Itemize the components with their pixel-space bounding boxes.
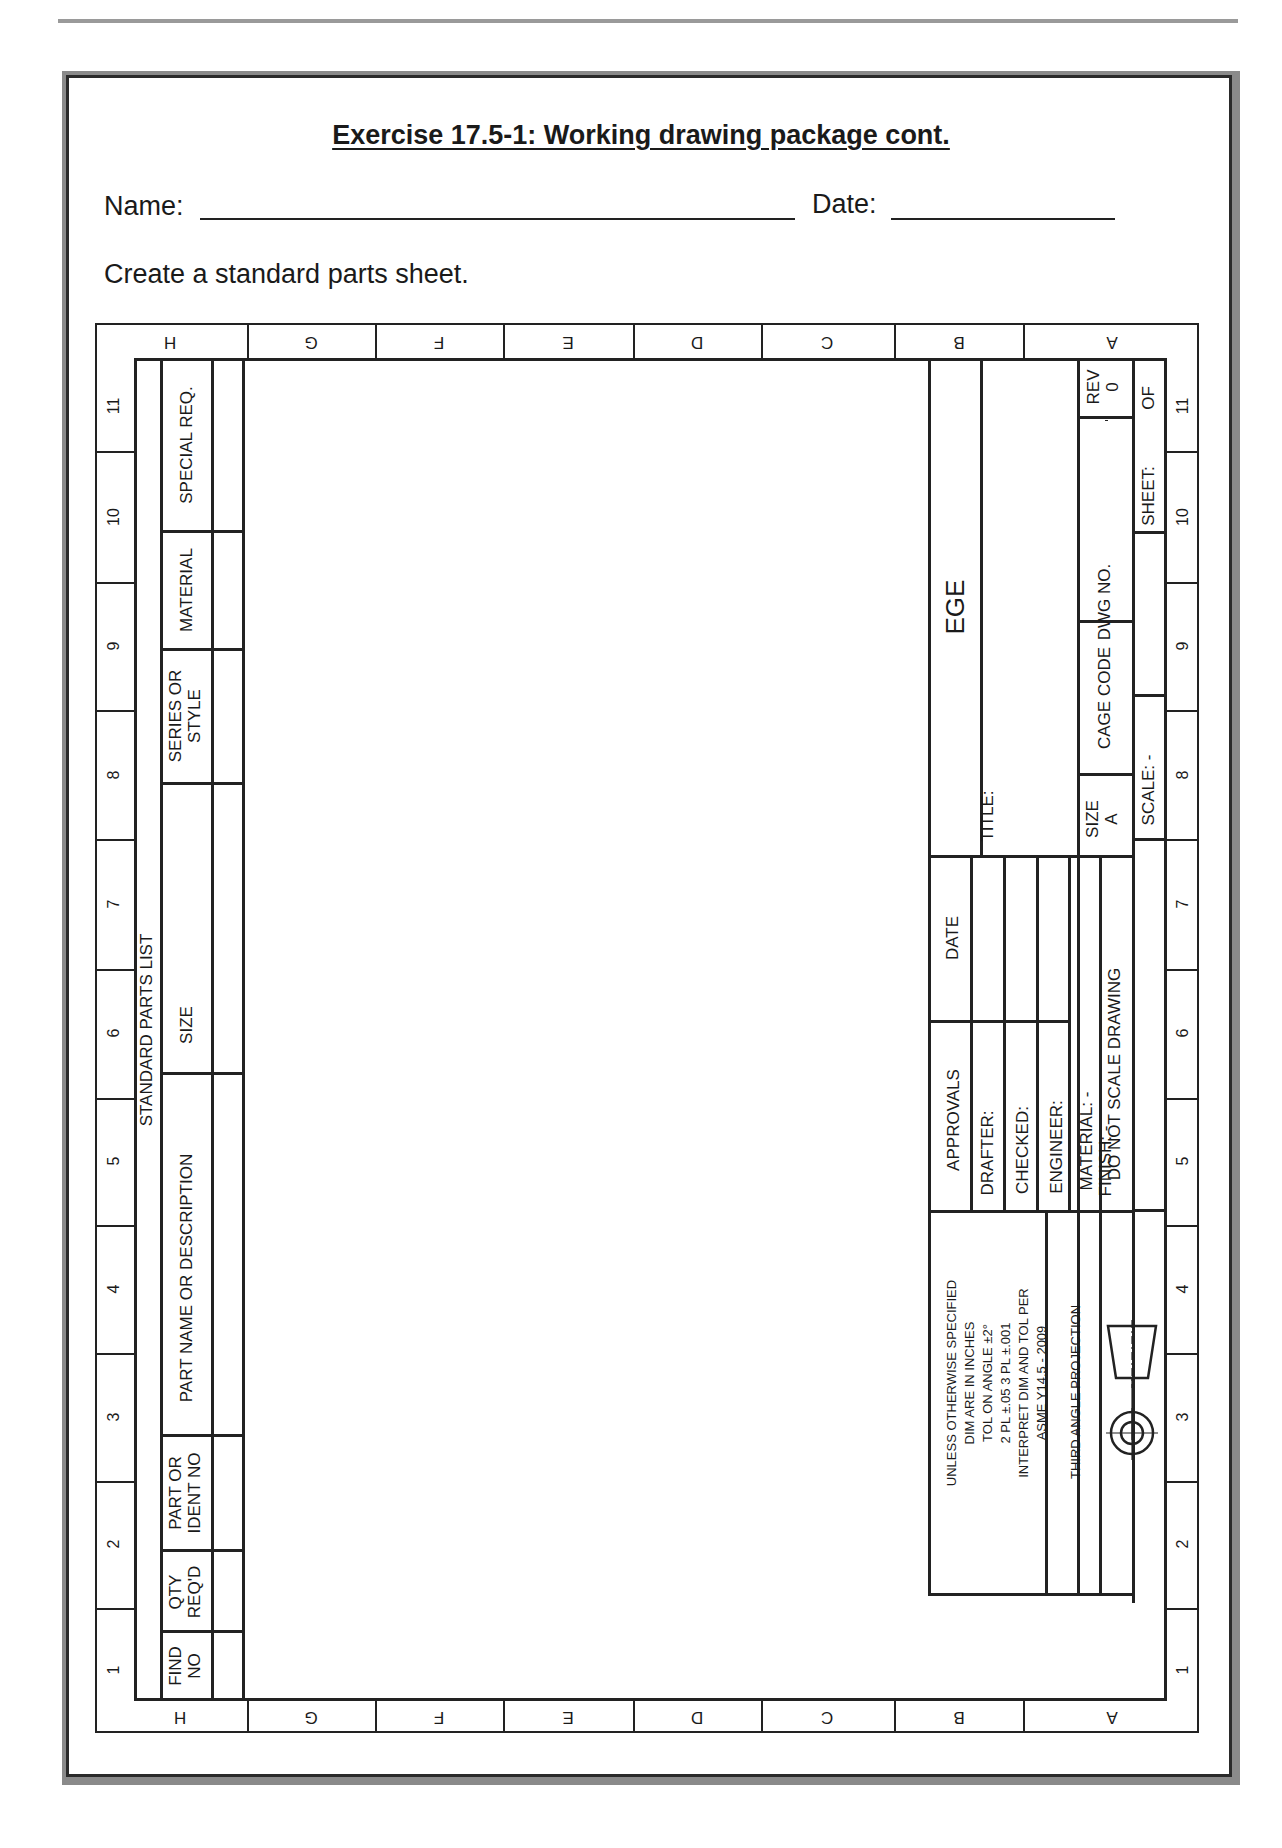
title-block-line bbox=[928, 1020, 1070, 1023]
title-label: TITLE: bbox=[978, 786, 998, 846]
top-rule bbox=[58, 19, 1238, 23]
col-header-special-req: SPECIAL REQ. bbox=[177, 345, 197, 545]
title-block-line bbox=[1077, 773, 1134, 776]
zone-number: 11 bbox=[1173, 386, 1193, 426]
zone-letter: F bbox=[419, 332, 459, 352]
parts-list-line bbox=[242, 358, 245, 1701]
title-block-line bbox=[1068, 856, 1071, 1210]
zone-letter: G bbox=[291, 332, 331, 352]
col-header-part-ident: PART OR IDENT NO bbox=[166, 1443, 206, 1543]
parts-list-line bbox=[160, 648, 244, 651]
tolerance-line: TOL ON ANGLE ±2° bbox=[979, 1233, 997, 1533]
dwg-no-label: DWG NO. bbox=[1095, 552, 1115, 652]
zone-letter: E bbox=[548, 332, 588, 352]
zone-letter: B bbox=[939, 1707, 979, 1727]
parts-list-line bbox=[160, 1434, 244, 1437]
zone-letter: F bbox=[419, 1707, 459, 1727]
col-header-series-line2: STYLE bbox=[185, 666, 204, 766]
zone-letter: D bbox=[677, 332, 717, 352]
zone-divider bbox=[1167, 1353, 1199, 1355]
col-header-qty-line2: REQ'D bbox=[185, 1557, 204, 1627]
title-block-line bbox=[928, 1210, 1135, 1213]
zone-number: 8 bbox=[1173, 755, 1193, 795]
zone-divider bbox=[95, 1225, 134, 1227]
zone-divider bbox=[247, 323, 249, 358]
name-label: Name: bbox=[104, 191, 184, 222]
zone-number: 6 bbox=[1173, 1013, 1193, 1053]
col-header-series-line1: SERIES OR bbox=[166, 666, 185, 766]
tolerance-line: ASME Y14.5 - 2009 bbox=[1033, 1233, 1051, 1533]
title-block-line bbox=[928, 1593, 1134, 1596]
zone-divider bbox=[95, 1098, 134, 1100]
drafter-label: DRAFTER: bbox=[978, 1103, 998, 1203]
parts-list-line bbox=[160, 1630, 244, 1633]
tolerance-line: 2 PL ±.05 3 PL ±.001 bbox=[997, 1233, 1015, 1533]
title-block-line bbox=[928, 358, 931, 1593]
do-not-scale-label: DO NOT SCALE DRAWING bbox=[1105, 964, 1125, 1184]
zone-divider bbox=[95, 710, 134, 712]
title-block-line bbox=[970, 856, 973, 1210]
rev-cell: REV 0 bbox=[1084, 357, 1124, 417]
zone-divider bbox=[95, 969, 134, 971]
col-header-part-name: PART NAME OR DESCRIPTION bbox=[177, 1128, 197, 1428]
projection-label: THIRD ANGLE PROJECTION bbox=[1068, 1302, 1084, 1482]
zone-letter: C bbox=[807, 332, 847, 352]
rev-label: REV bbox=[1084, 357, 1103, 417]
parts-list-line bbox=[160, 1072, 244, 1075]
zone-number: 1 bbox=[1173, 1650, 1193, 1690]
zone-letter: A bbox=[1092, 1707, 1132, 1727]
col-header-find-line1: FIND bbox=[166, 1636, 185, 1696]
zone-divider bbox=[1023, 323, 1025, 358]
title-block-line bbox=[1132, 694, 1167, 697]
third-angle-projection-icon bbox=[1090, 1320, 1170, 1480]
zone-letter: H bbox=[160, 1707, 200, 1727]
zone-divider bbox=[1167, 1098, 1199, 1100]
name-field[interactable] bbox=[200, 218, 795, 220]
date-field[interactable] bbox=[891, 218, 1115, 220]
zone-number: 3 bbox=[1173, 1397, 1193, 1437]
zone-number: 9 bbox=[104, 626, 124, 666]
zone-letter: G bbox=[291, 1707, 331, 1727]
tolerance-line: DIM ARE IN INCHES bbox=[961, 1233, 979, 1533]
tolerance-line: INTERPRET DIM AND TOL PER bbox=[1015, 1233, 1033, 1533]
col-header-material: MATERIAL bbox=[177, 520, 197, 660]
rev-value: 0 bbox=[1103, 357, 1122, 417]
instruction-text: Create a standard parts sheet. bbox=[104, 259, 469, 290]
approvals-header: APPROVALS bbox=[944, 1055, 964, 1185]
scale-label: SCALE: - bbox=[1139, 740, 1159, 840]
zone-letter: B bbox=[939, 332, 979, 352]
col-header-part-ident-line2: IDENT NO bbox=[185, 1443, 204, 1543]
parts-list-line bbox=[160, 1549, 244, 1552]
size-cell: SIZE A bbox=[1083, 786, 1123, 852]
col-header-find-line2: NO bbox=[185, 1636, 204, 1696]
zone-number: 10 bbox=[104, 497, 124, 537]
zone-number: 7 bbox=[104, 884, 124, 924]
zone-divider bbox=[95, 582, 134, 584]
date-label: Date: bbox=[812, 189, 877, 220]
zone-divider bbox=[503, 1701, 505, 1733]
zone-divider bbox=[95, 451, 134, 453]
zone-divider bbox=[633, 1701, 635, 1733]
zone-number: 6 bbox=[104, 1013, 124, 1053]
zone-divider bbox=[1167, 582, 1199, 584]
zone-divider bbox=[761, 1701, 763, 1733]
sheet-label: SHEET: bbox=[1139, 456, 1159, 536]
title-block-line bbox=[1036, 856, 1039, 1210]
zone-number: 3 bbox=[104, 1397, 124, 1437]
zone-divider bbox=[1167, 1225, 1199, 1227]
title-block-line bbox=[1132, 1209, 1167, 1212]
col-header-part-ident-line1: PART OR bbox=[166, 1443, 185, 1543]
tolerance-line: UNLESS OTHERWISE SPECIFIED bbox=[943, 1233, 961, 1533]
size-value: A bbox=[1102, 786, 1121, 852]
zone-divider bbox=[247, 1701, 249, 1733]
zone-divider bbox=[95, 839, 134, 841]
zone-divider bbox=[1167, 710, 1199, 712]
zone-number: 1 bbox=[104, 1650, 124, 1690]
zone-number: 5 bbox=[104, 1141, 124, 1181]
zone-letter: A bbox=[1092, 332, 1132, 352]
company-name: EGE bbox=[940, 557, 970, 657]
page-title: Exercise 17.5-1: Working drawing package… bbox=[0, 120, 1282, 151]
zone-divider bbox=[894, 323, 896, 358]
zone-number: 8 bbox=[104, 755, 124, 795]
engineer-label: ENGINEER: bbox=[1047, 1091, 1067, 1203]
